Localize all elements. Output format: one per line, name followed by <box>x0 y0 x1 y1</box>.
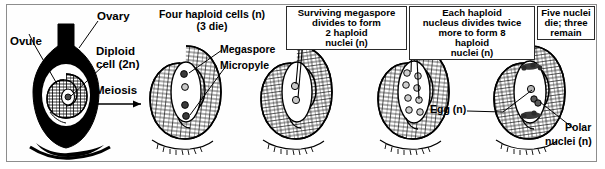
label-diploid-cell-line2: cell (2n) <box>96 59 139 71</box>
stage-4-caption-line5: nuclei (n) <box>412 48 532 58</box>
label-ovary: Ovary <box>97 11 130 23</box>
label-ovule: Ovule <box>10 36 42 48</box>
label-polar-nuclei-line2: nuclei (n) <box>545 136 592 147</box>
stage-2-caption-line2: (3 die) <box>148 21 276 32</box>
label-diploid-cell-line1: Diploid <box>96 46 135 58</box>
stage-5-caption-box: Five nuclei die; three remain <box>537 6 595 40</box>
stage-3-caption-line4: nuclei (n) <box>289 38 404 48</box>
megasporogenesis-figure: Ovary Ovule Diploid cell (2n) Meiosis Fo… <box>0 0 605 169</box>
label-meiosis: Meiosis <box>95 85 137 97</box>
label-micropyle: Micropyle <box>220 60 269 71</box>
label-megaspore: Megaspore <box>220 44 275 55</box>
stage-5-caption-line3: remain <box>540 28 592 38</box>
label-egg: Egg (n) <box>430 104 466 115</box>
stage-3-caption-box: Surviving megaspore divides to form 2 ha… <box>286 6 407 50</box>
stage-2-caption-line1: Four haploid cells (n) <box>148 9 276 20</box>
label-polar-nuclei-line1: Polar <box>565 122 591 133</box>
stage-4-caption-box: Each haploid nucleus divides twice more … <box>409 6 535 60</box>
